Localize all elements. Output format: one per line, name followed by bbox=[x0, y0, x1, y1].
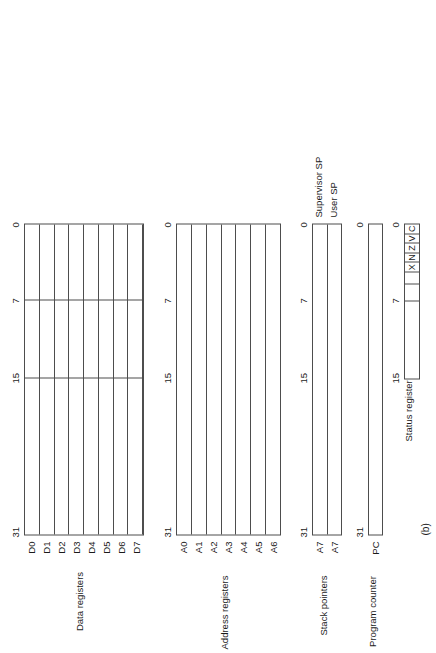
address-registers-bank bbox=[176, 223, 281, 535]
bit-tick-0: 0 bbox=[11, 222, 21, 227]
bit-tick-15: 15 bbox=[391, 372, 401, 383]
bit-tick-15: 15 bbox=[163, 372, 173, 383]
register-row-a0[interactable] bbox=[177, 224, 192, 534]
bit-tick-31: 31 bbox=[299, 526, 309, 537]
bit-tick-7: 7 bbox=[391, 298, 401, 303]
bit-tick-0: 0 bbox=[355, 222, 365, 227]
register-row-d6[interactable] bbox=[114, 224, 129, 534]
status-register-cell-unused-b[interactable] bbox=[405, 283, 419, 300]
register-label-a1: A1 bbox=[194, 541, 204, 561]
register-row-a1[interactable] bbox=[192, 224, 207, 534]
register-row-a2[interactable] bbox=[207, 224, 222, 534]
register-label-a4: A4 bbox=[239, 541, 249, 561]
register-row-a6[interactable] bbox=[266, 224, 280, 534]
register-label-d5: D5 bbox=[102, 541, 112, 561]
register-label-d2: D2 bbox=[57, 541, 67, 561]
register-row-a4[interactable] bbox=[236, 224, 251, 534]
group-data-registers: 31 15 7 0 D0 D1 D2 D3 D4 D5 D6 D7 Data r… bbox=[24, 223, 144, 535]
group-caption-stack-pointers: Stack pointers bbox=[318, 571, 329, 639]
group-caption-program-counter: Program counter bbox=[367, 571, 378, 651]
group-stack-pointers: 31 15 7 0 A7 A7 Stack pointers Superviso… bbox=[312, 223, 342, 535]
register-label-a7-supervisor: A7 bbox=[315, 541, 325, 561]
bit-tick-31: 31 bbox=[11, 526, 21, 537]
register-row-a3[interactable] bbox=[222, 224, 237, 534]
register-row-a7-supervisor[interactable] bbox=[313, 224, 328, 534]
register-label-a6: A6 bbox=[269, 541, 279, 561]
figure-caption: (b) bbox=[420, 523, 431, 535]
status-register-cell-unused-a[interactable] bbox=[405, 300, 419, 378]
register-row-d0[interactable] bbox=[25, 224, 40, 534]
register-label-pc: PC bbox=[371, 541, 381, 561]
data-registers-bank bbox=[24, 223, 144, 535]
register-label-a7-user: A7 bbox=[330, 541, 340, 561]
status-register-flag-n[interactable]: N bbox=[405, 252, 419, 262]
group-caption-address-registers: Address registers bbox=[219, 571, 230, 653]
register-label-d6: D6 bbox=[117, 541, 127, 561]
bit-tick-0: 0 bbox=[163, 222, 173, 227]
group-caption-data-registers: Data registers bbox=[74, 571, 85, 631]
register-label-d0: D0 bbox=[27, 541, 37, 561]
status-register-flag-z[interactable]: Z bbox=[405, 242, 419, 252]
register-row-d7[interactable] bbox=[128, 224, 143, 534]
register-label-a3: A3 bbox=[224, 541, 234, 561]
group-caption-status-register: Status register bbox=[403, 385, 414, 441]
bit-tick-15: 15 bbox=[299, 372, 309, 383]
register-row-d5[interactable] bbox=[99, 224, 114, 534]
register-label-d4: D4 bbox=[87, 541, 97, 561]
group-address-registers: 31 15 7 0 A0 A1 A2 A3 A4 A5 A6 Address r… bbox=[176, 223, 281, 535]
status-register-flag-c[interactable]: C bbox=[405, 224, 419, 233]
status-register-flag-x[interactable]: X bbox=[405, 261, 419, 271]
bit-rule-7 bbox=[25, 299, 143, 300]
stack-pointers-bank bbox=[312, 223, 342, 535]
bit-tick-31: 31 bbox=[355, 526, 365, 537]
register-row-a5[interactable] bbox=[251, 224, 266, 534]
status-register-cell-unused-c[interactable] bbox=[405, 271, 419, 283]
register-row-d4[interactable] bbox=[84, 224, 99, 534]
register-row-pc[interactable] bbox=[369, 224, 382, 534]
bit-tick-0: 0 bbox=[299, 222, 309, 227]
bit-tick-0: 0 bbox=[391, 222, 401, 227]
bit-tick-31: 31 bbox=[163, 526, 173, 537]
group-status-register: X N Z V C 15 7 0 Status register bbox=[404, 223, 420, 379]
bit-tick-7: 7 bbox=[11, 298, 21, 303]
register-label-a5: A5 bbox=[254, 541, 264, 561]
register-row-a7-user[interactable] bbox=[328, 224, 342, 534]
bit-tick-15: 15 bbox=[11, 372, 21, 383]
status-register-bank: X N Z V C bbox=[404, 223, 420, 379]
register-row-d1[interactable] bbox=[40, 224, 55, 534]
register-label-d1: D1 bbox=[42, 541, 52, 561]
bit-tick-7: 7 bbox=[163, 298, 173, 303]
status-register-flag-v[interactable]: V bbox=[405, 233, 419, 243]
group-program-counter: 31 0 PC Program counter bbox=[368, 223, 383, 535]
register-label-a2: A2 bbox=[209, 541, 219, 561]
bit-rule-15 bbox=[25, 377, 143, 378]
register-label-a0: A0 bbox=[179, 541, 189, 561]
register-label-d7: D7 bbox=[132, 541, 142, 561]
stack-pointer-label-supervisor: Supervisor SP bbox=[313, 156, 324, 217]
bit-tick-7: 7 bbox=[299, 298, 309, 303]
register-row-d2[interactable] bbox=[55, 224, 70, 534]
register-label-d3: D3 bbox=[72, 541, 82, 561]
program-counter-bank bbox=[368, 223, 383, 535]
stack-pointer-label-user: User SP bbox=[328, 182, 339, 217]
register-row-d3[interactable] bbox=[69, 224, 84, 534]
